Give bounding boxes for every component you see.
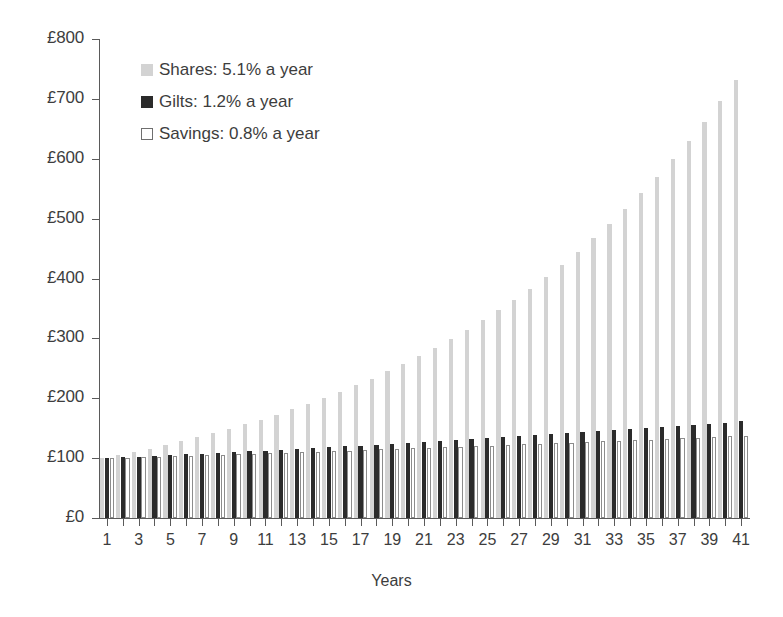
x-axis-tick <box>646 519 647 526</box>
x-axis-tick <box>535 519 536 526</box>
bar-gilts <box>628 429 632 518</box>
bar-shares <box>401 364 405 518</box>
bar-gilts <box>247 451 251 518</box>
bar-group <box>527 39 543 518</box>
bar-gilts <box>501 437 505 518</box>
bar-gilts <box>279 450 283 518</box>
x-axis-tick <box>725 519 726 526</box>
bar-gilts <box>517 436 521 518</box>
x-axis-tick-label: 23 <box>447 531 465 549</box>
bar-savings <box>712 437 716 518</box>
x-axis-tick-label: 17 <box>352 531 370 549</box>
x-axis-tick-label: 7 <box>198 531 207 549</box>
bar-savings <box>538 444 542 518</box>
bar-shares <box>671 159 675 518</box>
x-axis-tick-label: 37 <box>669 531 687 549</box>
bar-shares <box>211 433 215 518</box>
x-axis-tick <box>678 519 679 526</box>
bar-gilts <box>739 421 743 518</box>
bar-group <box>717 39 733 518</box>
y-axis-tick <box>92 279 99 280</box>
bar-savings <box>332 451 336 518</box>
legend-item[interactable]: Gilts: 1.2% a year <box>141 86 320 118</box>
x-axis-tick <box>234 519 235 526</box>
x-axis-tick <box>218 519 219 526</box>
y-axis-tick-label: £100 <box>0 447 84 467</box>
y-axis-tick-label: £200 <box>0 387 84 407</box>
legend-item-label: Savings: 0.8% a year <box>159 124 320 144</box>
y-axis-tick <box>92 39 99 40</box>
y-axis-tick <box>92 99 99 100</box>
bar-gilts <box>723 423 727 519</box>
bar-group <box>400 39 416 518</box>
y-axis-tick <box>92 458 99 459</box>
bar-gilts <box>200 454 204 518</box>
y-axis-tick <box>92 219 99 220</box>
bar-gilts <box>168 455 172 518</box>
x-axis-tick-label: 1 <box>102 531 111 549</box>
y-axis-tick <box>92 159 99 160</box>
bar-shares <box>227 429 231 518</box>
bar-gilts <box>390 444 394 518</box>
bar-gilts <box>565 433 569 518</box>
bar-shares <box>385 371 389 518</box>
bar-savings <box>268 453 272 518</box>
bar-savings <box>585 442 589 518</box>
x-axis-tick <box>598 519 599 526</box>
legend-item[interactable]: Savings: 0.8% a year <box>141 118 320 150</box>
x-axis-tick-label: 3 <box>134 531 143 549</box>
bar-savings <box>379 449 383 518</box>
bar-group <box>321 39 337 518</box>
bar-shares <box>560 265 564 518</box>
legend-item[interactable]: Shares: 5.1% a year <box>141 54 320 86</box>
bar-gilts <box>596 431 600 518</box>
bar-group <box>559 39 575 518</box>
x-axis-tick <box>281 519 282 526</box>
bar-group <box>511 39 527 518</box>
x-axis-tick <box>186 519 187 526</box>
x-axis-tick-label: 27 <box>510 531 528 549</box>
x-axis-title: Years <box>0 572 783 590</box>
bar-savings <box>363 450 367 518</box>
bar-shares <box>496 310 500 518</box>
bar-shares <box>322 398 326 518</box>
bar-savings <box>728 436 732 518</box>
bar-group <box>622 39 638 518</box>
bar-savings <box>443 447 447 518</box>
x-axis-tick-label: 39 <box>700 531 718 549</box>
bar-group <box>654 39 670 518</box>
bar-gilts <box>374 445 378 518</box>
bar-group <box>543 39 559 518</box>
x-axis-tick <box>662 519 663 526</box>
bar-shares <box>687 141 691 518</box>
growth-comparison-bar-chart: £0£100£200£300£400£500£600£700£800 13579… <box>0 0 783 617</box>
bar-group <box>590 39 606 518</box>
bar-savings <box>744 436 748 518</box>
bar-shares <box>576 252 580 518</box>
bar-gilts <box>660 427 664 518</box>
bar-savings <box>490 446 494 519</box>
bar-shares <box>100 458 104 518</box>
bar-gilts <box>105 458 109 518</box>
bar-group <box>432 39 448 518</box>
bar-savings <box>506 445 510 518</box>
bar-gilts <box>549 434 553 518</box>
bar-shares <box>512 300 516 518</box>
bar-savings <box>680 438 684 518</box>
bar-savings <box>347 451 351 518</box>
bar-shares <box>639 193 643 518</box>
bar-group <box>606 39 622 518</box>
x-axis-tick <box>392 519 393 526</box>
bar-group <box>353 39 369 518</box>
bar-gilts <box>216 453 220 518</box>
y-axis-tick-label: £600 <box>0 148 84 168</box>
bar-shares <box>259 420 263 518</box>
bar-savings <box>125 458 129 518</box>
x-axis-tick <box>139 519 140 526</box>
x-axis-tick-label: 41 <box>732 531 750 549</box>
bar-savings <box>665 439 669 518</box>
x-axis-tick-label: 31 <box>574 531 592 549</box>
x-axis-tick <box>519 519 520 526</box>
y-axis-tick-label: £500 <box>0 208 84 228</box>
bar-group <box>575 39 591 518</box>
